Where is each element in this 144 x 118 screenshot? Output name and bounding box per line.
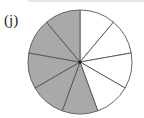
center-point (79, 61, 82, 64)
fraction-circle (0, 0, 144, 118)
